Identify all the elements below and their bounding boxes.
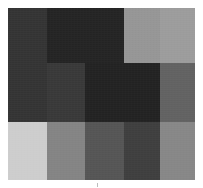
figure-canvas	[0, 0, 203, 188]
heatmap-cell-r0-c3	[124, 8, 160, 63]
bottom-tick-mark	[97, 183, 98, 187]
heatmap-cell-r0-c4	[160, 8, 195, 63]
heatmap-cell-r2-c0	[8, 122, 47, 180]
heatmap-cell-r0-c0	[8, 8, 47, 63]
heatmap-cell-r2-c4	[160, 122, 195, 180]
heatmap-cell-r1-c3	[124, 63, 160, 122]
heatmap-cell-r1-c2	[85, 63, 124, 122]
heatmap-cell-r2-c3	[124, 122, 160, 180]
heatmap-cell-r1-c1	[47, 63, 85, 122]
heatmap-cell-r0-c1	[47, 8, 85, 63]
heatmap-cell-r0-c2	[85, 8, 124, 63]
heatmap-grid	[8, 8, 195, 180]
heatmap-cell-r2-c1	[47, 122, 85, 180]
heatmap-cell-r2-c2	[85, 122, 124, 180]
heatmap-cell-r1-c4	[160, 63, 195, 122]
heatmap-cell-r1-c0	[8, 63, 47, 122]
